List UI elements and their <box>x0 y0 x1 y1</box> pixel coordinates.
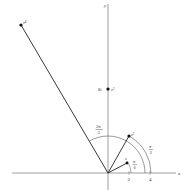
svg-text:π: π <box>149 144 152 149</box>
label-z2: z2 <box>130 132 135 138</box>
vector-z4 <box>21 25 108 173</box>
complex-plane-diagram: x y 2 4 z4 z3 8i z2 z 2π 3 π 3 π 6 <box>0 0 189 194</box>
svg-text:2π: 2π <box>96 124 101 129</box>
label-z4: z4 <box>22 20 27 26</box>
label-8i: 8i <box>98 87 102 92</box>
angle-label-pi-over-6: π 6 <box>133 159 138 170</box>
tick-label-2: 2 <box>128 177 131 182</box>
svg-text:3: 3 <box>150 150 153 155</box>
arc-pi-over-6 <box>128 162 131 173</box>
point-z1 <box>126 162 129 165</box>
label-z1: z <box>124 156 127 161</box>
y-axis-label: y <box>103 3 107 8</box>
x-axis-label: x <box>177 171 181 176</box>
svg-text:π: π <box>133 159 136 164</box>
label-z3: z3 <box>110 87 115 93</box>
point-z3 <box>106 87 109 90</box>
svg-text:6: 6 <box>134 165 137 170</box>
svg-text:3: 3 <box>98 130 101 135</box>
angle-label-two-pi-over-3: 2π 3 <box>96 124 104 135</box>
angle-label-pi-over-3: π 3 <box>149 144 154 155</box>
tick-label-4: 4 <box>149 177 152 182</box>
